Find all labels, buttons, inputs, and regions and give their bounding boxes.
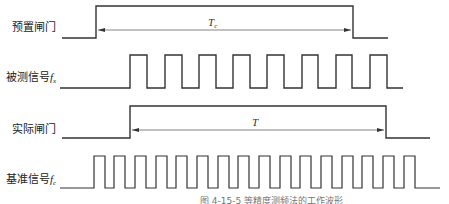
- arrowhead-right: [377, 128, 384, 132]
- signal-label-preset-gate: 预置闸门: [12, 18, 56, 34]
- signal-label-reference-signal: 基准信号fc: [6, 170, 56, 187]
- reference-signal-waveform: [60, 156, 440, 188]
- arrowhead-right: [344, 28, 351, 32]
- arrowhead-left: [98, 28, 105, 32]
- signal-label-measured-signal: 被测信号fx: [6, 68, 56, 85]
- preset-gate-waveform: [62, 6, 388, 38]
- arrowhead-left: [132, 128, 139, 132]
- measured-signal-waveform: [60, 55, 403, 88]
- signal-label-actual-gate: 实际闸门: [12, 120, 56, 136]
- actual-gate-waveform: [62, 106, 430, 138]
- preset-gate-interval-label: Tc: [208, 16, 217, 30]
- actual-gate-interval-label: T: [252, 116, 258, 128]
- timing-diagram: [0, 0, 449, 204]
- figure-caption: 图 4-15-5 等精度测频法的工作波形: [200, 194, 343, 204]
